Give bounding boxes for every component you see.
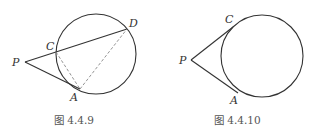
point-label-A: A [69,91,78,104]
diagram-canvas: P C D A 图 4.4.9 P C A 图 4.4.10 [0,0,320,135]
point-label-C: C [225,13,234,26]
figure-caption: 图 4.4.10 [214,114,261,126]
figure-caption: 图 4.4.9 [54,114,94,126]
tangent-line-PA [25,62,80,89]
tangent-line-PA [191,60,238,93]
dashed-segment-AD [80,29,127,89]
figure-4-4-10: P C A 图 4.4.10 [178,13,303,126]
figure-4-4-9: P C D A 图 4.4.9 [11,14,138,126]
point-label-A: A [229,94,238,107]
secant-line-PD [25,29,127,62]
circle [221,15,303,97]
point-label-P: P [11,56,20,69]
tangent-line-PC [191,27,233,60]
circle [56,14,136,94]
point-label-D: D [128,17,138,30]
point-label-P: P [178,54,187,67]
point-label-C: C [46,40,55,53]
